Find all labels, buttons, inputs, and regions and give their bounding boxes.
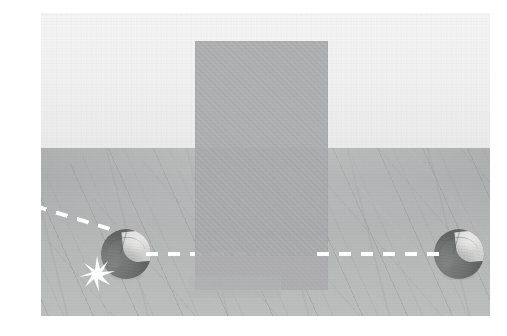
sphere-right-specular xyxy=(434,229,484,279)
rendered-scene-frame xyxy=(41,13,490,316)
sphere-right xyxy=(434,229,484,279)
occluder-panel-texture xyxy=(195,41,328,290)
trajectory-segment-right xyxy=(317,252,441,256)
occluder-panel-base-shadow xyxy=(189,276,281,298)
occluder-panel xyxy=(195,41,328,290)
scene-canvas xyxy=(0,0,507,336)
impact-star-icon xyxy=(79,256,115,292)
